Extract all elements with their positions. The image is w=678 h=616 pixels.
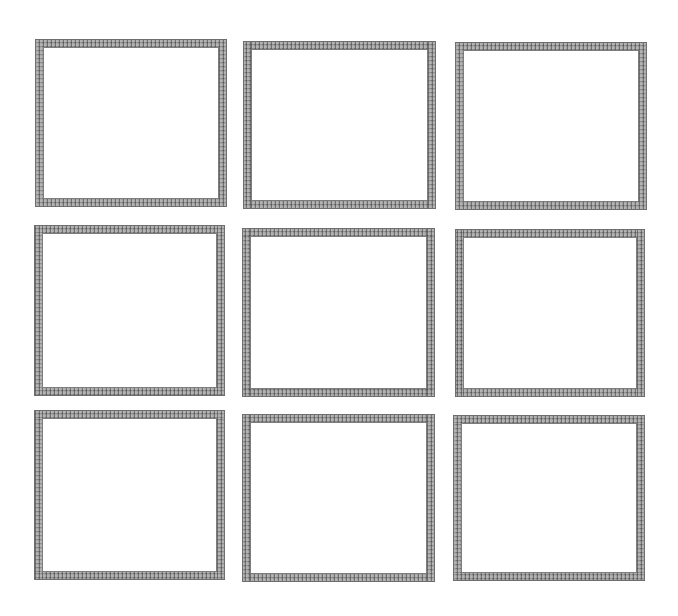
decorative-frame-r2-c1 [34, 225, 225, 396]
frame-inner-edge [250, 236, 427, 389]
decorative-frame-r1-c2 [243, 41, 436, 209]
decorative-frame-r3-c2 [242, 414, 435, 582]
frame-inner-edge [463, 50, 639, 202]
decorative-frame-r2-c2 [242, 228, 435, 397]
decorative-frame-r1-c1 [35, 39, 227, 207]
frame-inner-edge [250, 422, 427, 574]
decorative-frame-r2-c3 [455, 229, 645, 397]
frame-inner-edge [461, 423, 637, 573]
frame-inner-edge [43, 47, 219, 199]
frame-inner-edge [251, 49, 428, 201]
frame-inner-edge [42, 233, 217, 388]
frame-inner-edge [42, 418, 217, 572]
decorative-frame-r3-c1 [34, 410, 225, 580]
frame-inner-edge [463, 237, 637, 389]
decorative-frame-r1-c3 [455, 42, 647, 210]
decorative-frame-r3-c3 [453, 415, 645, 581]
